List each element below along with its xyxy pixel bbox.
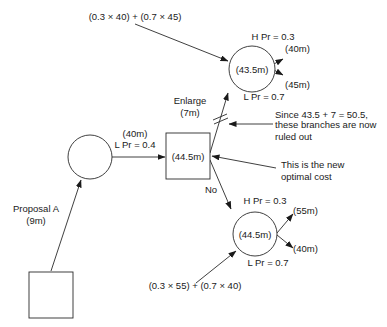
branch-enlarge [210,93,228,153]
enlarge-label: Enlarge [174,95,207,106]
optimal-line-2: optimal cost [281,171,332,182]
branch-no-high [277,214,293,233]
no-low-prob: L Pr = 0.7 [247,257,288,268]
decision-tree-diagram: (44.5m) (43.5m) (44.5m) Proposal A (9m) … [0,0,387,327]
branch-proposal-a [51,180,81,271]
no-calc-annotation: (0.3 × 55) + (0.7 × 40) [149,280,242,291]
ruled-out-line-2: these branches are now [275,119,377,130]
chance-enlarge-label: (43.5m) [236,64,269,75]
no-high-prob: H Pr = 0.3 [243,195,286,206]
chance-node-a [68,135,112,179]
enlarge-low-value: (45m) [285,79,310,90]
enlarge-calc-annotation: (0.3 × 40) + (0.7 × 45) [89,11,182,22]
low-a-value: (40m) [123,128,148,139]
enlarge-low-prob: L Pr = 0.7 [243,91,284,102]
no-label: No [205,184,217,195]
optimal-line-1: This is the new [281,159,344,170]
enlarge-cost: (7m) [180,107,200,118]
enlarge-calc-arrow [135,24,228,61]
enlarge-high-prob: H Pr = 0.3 [251,31,294,42]
no-calc-arrow [196,251,236,283]
ruled-out-line-3: ruled out [275,131,312,142]
no-low-value: (40m) [293,243,318,254]
branch-no-low [277,235,293,248]
proposal-a-label: Proposal A [13,203,60,214]
low-a-prob: L Pr = 0.4 [114,139,155,150]
decision-node-2-label: (44.5m) [172,151,205,162]
proposal-a-cost: (9m) [26,215,46,226]
optimal-arrow [212,156,276,168]
start-decision-node [29,272,73,318]
enlarge-high-value: (40m) [285,43,310,54]
chance-no-label: (44.5m) [239,229,272,240]
no-high-value: (55m) [293,205,318,216]
branch-enlarge-high [274,59,283,64]
